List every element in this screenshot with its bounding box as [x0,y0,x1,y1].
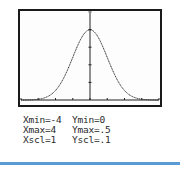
divider-rule [0,162,180,165]
yscl-label: Yscl=.1 [72,135,111,145]
normal-curve-plot [20,11,160,105]
window-settings: Xmin=-4 Ymin=0 Xmax=4 Ymax=.5 Xscl=1 Ysc… [23,115,111,145]
calculator-graph-screen [18,9,162,107]
xscl-label: Xscl=1 [23,135,72,145]
settings-row-3: Xscl=1 Yscl=.1 [23,135,111,145]
